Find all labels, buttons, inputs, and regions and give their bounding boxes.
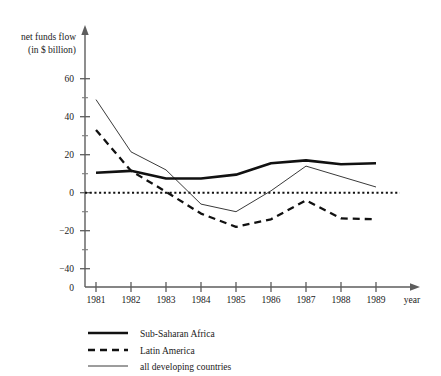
chart-svg: net funds flow (in $ billion) 60 [0, 0, 441, 376]
series-line-all-developing-countries [96, 100, 376, 212]
x-tick-label: 1988 [332, 295, 351, 305]
y-tick-label: 40 [65, 112, 75, 122]
series-line-latin-america [96, 130, 376, 227]
y-axis-title-line1: net funds flow [21, 32, 76, 42]
y-axis-title-line2: (in $ billion) [28, 45, 76, 56]
y-tick-label: 20 [65, 150, 75, 160]
y-tick-label: 0 [69, 188, 74, 198]
x-tick-label: 1985 [227, 295, 246, 305]
x-axis-tick-labels: 1981 1982 1983 1984 1985 1986 1987 1988 … [87, 295, 386, 305]
legend-label-latin-america: Latin America [140, 346, 195, 356]
x-tick-label: 1984 [192, 295, 211, 305]
chart-figure: net funds flow (in $ billion) 60 [0, 0, 441, 376]
x-tick-label: 1983 [157, 295, 176, 305]
y-tick-label: −20 [59, 226, 74, 236]
origin-label: 0 [69, 283, 74, 293]
x-tick-label: 1987 [297, 295, 316, 305]
x-tick-label: 1989 [367, 295, 386, 305]
x-tick-label: 1982 [122, 295, 141, 305]
x-axis-arrowhead [410, 283, 420, 290]
legend-label-all-developing-countries: all developing countries [140, 362, 232, 372]
x-axis-title: year [404, 295, 421, 305]
y-axis-tick-labels: 60 40 20 0 −20 −40 0 [59, 74, 74, 292]
y-tick-label: −40 [59, 264, 74, 274]
legend: Sub-Saharan Africa Latin America all dev… [88, 329, 232, 372]
y-tick-label: 60 [65, 74, 75, 84]
x-tick-label: 1986 [262, 295, 281, 305]
legend-label-sub-saharan-africa: Sub-Saharan Africa [140, 329, 215, 339]
x-tick-label: 1981 [87, 295, 106, 305]
y-axis-arrowhead [81, 25, 88, 35]
